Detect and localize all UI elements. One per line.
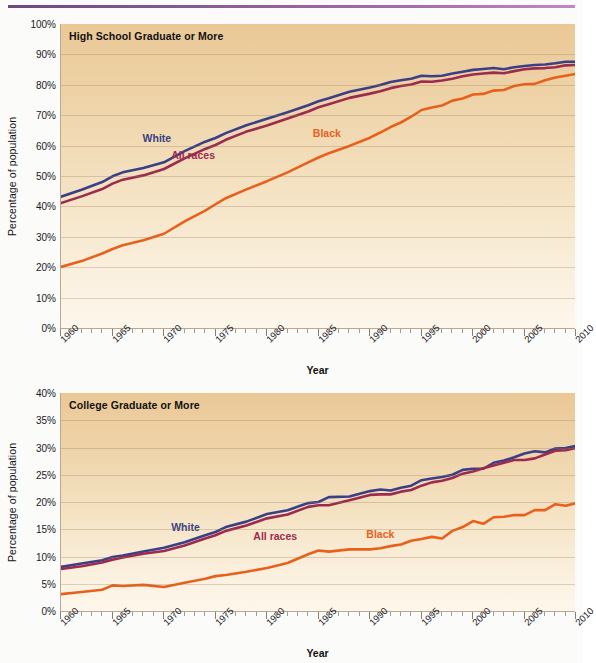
x-axis-minor-tick <box>101 612 102 616</box>
x-axis-minor-tick <box>81 612 82 616</box>
series-label-all-races-hs: All races <box>171 149 215 161</box>
x-axis-minor-tick <box>554 612 555 616</box>
x-axis-minor-tick <box>122 329 123 333</box>
x-axis-minor-tick <box>132 612 133 616</box>
x-axis-minor-tick <box>256 612 257 616</box>
gridline <box>61 115 575 116</box>
series-line-black <box>61 503 575 594</box>
x-axis-minor-tick <box>91 329 92 333</box>
x-axis-minor-tick <box>184 329 185 333</box>
x-axis-minor-tick <box>81 329 82 333</box>
y-axis-tick-label: 40% <box>4 201 56 212</box>
x-axis-minor-tick <box>297 329 298 333</box>
x-axis-minor-tick <box>534 612 535 616</box>
gridline <box>61 85 575 86</box>
y-axis-tick-label: 40% <box>4 388 56 399</box>
x-axis-minor-tick <box>359 329 360 333</box>
x-axis-minor-tick <box>101 329 102 333</box>
x-axis-minor-tick <box>245 612 246 616</box>
x-axis-minor-tick <box>400 329 401 333</box>
x-axis-minor-tick <box>338 329 339 333</box>
plot-area-hs: High School Graduate or More White All r… <box>60 24 575 328</box>
x-axis-minor-tick <box>462 612 463 616</box>
gridline <box>61 475 575 476</box>
series-label-all-races-col: All races <box>253 530 297 542</box>
x-axis-minor-tick <box>493 612 494 616</box>
gridline <box>61 557 575 558</box>
y-axis-tick-label: 0% <box>4 323 56 334</box>
page-top-rule <box>8 5 575 8</box>
x-axis-minor-tick <box>359 612 360 616</box>
y-axis-tick-label: 80% <box>4 79 56 90</box>
x-axis-minor-tick <box>204 612 205 616</box>
x-axis-minor-tick <box>194 612 195 616</box>
x-axis-minor-tick <box>348 612 349 616</box>
x-axis-minor-tick <box>431 329 432 333</box>
series-label-white-hs: White <box>143 132 172 144</box>
x-axis-minor-tick <box>554 329 555 333</box>
x-axis-minor-tick <box>194 329 195 333</box>
x-axis-minor-tick <box>184 612 185 616</box>
y-axis-tick-label: 10% <box>4 551 56 562</box>
gridline <box>61 206 575 207</box>
x-axis-title-col: Year <box>60 647 575 659</box>
x-axis-minor-tick <box>400 612 401 616</box>
y-axis-tick-label: 60% <box>4 140 56 151</box>
x-axis-minor-tick <box>132 329 133 333</box>
x-axis-minor-tick <box>276 612 277 616</box>
x-axis-minor-tick <box>173 612 174 616</box>
x-axis-minor-tick <box>287 612 288 616</box>
x-axis-minor-tick <box>297 612 298 616</box>
y-axis-tick-label: 70% <box>4 110 56 121</box>
y-axis-tick-label: 20% <box>4 262 56 273</box>
x-axis-minor-tick <box>513 329 514 333</box>
x-axis-minor-tick <box>431 612 432 616</box>
gridline <box>61 502 575 503</box>
x-axis-minor-tick <box>410 612 411 616</box>
x-axis-minor-tick <box>225 612 226 616</box>
x-axis-minor-tick <box>379 329 380 333</box>
gridline <box>61 54 575 55</box>
x-axis-minor-tick <box>276 329 277 333</box>
x-axis-minor-tick <box>307 612 308 616</box>
y-axis-tick-label: 90% <box>4 49 56 60</box>
x-axis-minor-tick <box>565 329 566 333</box>
y-axis-tick-label: 5% <box>4 578 56 589</box>
gridline <box>61 267 575 268</box>
x-axis-minor-tick <box>142 329 143 333</box>
y-axis-tick-label: 20% <box>4 497 56 508</box>
x-axis-minor-tick <box>390 329 391 333</box>
x-axis-minor-tick <box>451 612 452 616</box>
gridline <box>61 448 575 449</box>
x-axis-minor-tick <box>225 329 226 333</box>
x-axis-minor-tick <box>328 329 329 333</box>
x-axis-minor-tick <box>379 612 380 616</box>
x-axis-minor-tick <box>245 329 246 333</box>
x-axis-minor-tick <box>451 329 452 333</box>
x-axis-title-hs: Year <box>60 364 575 376</box>
x-axis-minor-tick <box>204 329 205 333</box>
y-axis-tick-label: 10% <box>4 292 56 303</box>
x-axis-minor-tick <box>544 329 545 333</box>
y-axis-tick-label: 0% <box>4 606 56 617</box>
x-axis-minor-tick <box>503 612 504 616</box>
x-axis-minor-tick <box>235 329 236 333</box>
gridline <box>61 529 575 530</box>
x-axis-tick-label: 2010 <box>573 605 596 628</box>
x-axis-minor-tick <box>91 612 92 616</box>
y-axis-tick-label: 50% <box>4 171 56 182</box>
x-axis-minor-tick <box>70 329 71 333</box>
x-axis-minor-tick <box>153 329 154 333</box>
x-axis-minor-tick <box>565 612 566 616</box>
series-label-black-hs: Black <box>313 127 341 139</box>
x-axis-minor-tick <box>534 329 535 333</box>
y-axis-tick-label: 25% <box>4 469 56 480</box>
x-axis-minor-tick <box>235 612 236 616</box>
x-axis-minor-tick <box>153 612 154 616</box>
x-axis-minor-tick <box>390 612 391 616</box>
y-axis-tick-label: 30% <box>4 231 56 242</box>
y-axis-tick-label: 15% <box>4 524 56 535</box>
x-axis-minor-tick <box>441 612 442 616</box>
gridline <box>61 146 575 147</box>
